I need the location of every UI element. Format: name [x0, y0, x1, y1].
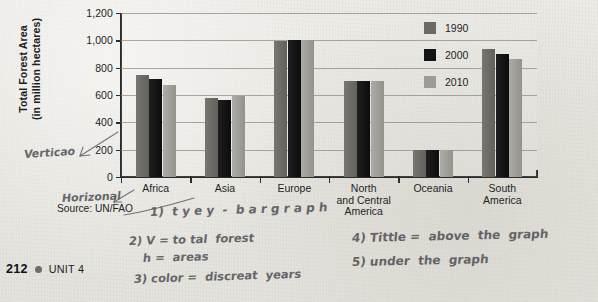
- legend-swatch-1990: [424, 22, 436, 34]
- legend-label: 2010: [445, 76, 468, 88]
- bar-2010: [163, 85, 176, 177]
- legend-swatch-2000: [424, 49, 436, 61]
- x-axis-tick: [329, 176, 330, 183]
- bar-2010: [509, 59, 522, 177]
- y-axis-tick-label: 600: [57, 89, 113, 101]
- bar-1990: [274, 41, 287, 177]
- bar-2000: [357, 81, 370, 177]
- y-axis-tick-label: 0: [57, 171, 113, 183]
- plot-area: [121, 13, 537, 177]
- unit-label: UNIT 4: [49, 263, 85, 275]
- legend-swatch-2010: [424, 76, 436, 88]
- legend-label: 1990: [445, 22, 468, 34]
- gridline: [121, 122, 537, 123]
- annotation-underline-africa: [118, 196, 198, 218]
- annotation-note-5: 5) under the graph: [351, 252, 489, 269]
- bar-group: [482, 13, 522, 177]
- y-axis-tick: [116, 122, 121, 123]
- x-axis-tick: [398, 176, 399, 183]
- bar-2000: [149, 79, 162, 177]
- y-axis-title-line1: Total Forest Area: [17, 0, 30, 138]
- y-axis-tick-label: 1,200: [57, 7, 113, 19]
- legend-item: 2000: [424, 46, 468, 64]
- bar-1990: [413, 150, 426, 177]
- y-axis-tick-label: 800: [57, 62, 113, 74]
- page-footer: 212 UNIT 4: [6, 262, 84, 276]
- gridline: [121, 13, 537, 14]
- x-axis-tick: [260, 176, 261, 183]
- bar-2010: [440, 150, 453, 177]
- bar-2010: [371, 81, 384, 177]
- annotation-arrow-vertical: [78, 126, 128, 160]
- bar-group: [136, 13, 176, 177]
- bar-1990: [344, 81, 357, 177]
- bar-2000: [218, 100, 231, 177]
- bullet-icon: [35, 266, 42, 273]
- y-axis-title-line2: (in million hectares): [30, 0, 43, 138]
- bar-group: [344, 13, 384, 177]
- bar-2010: [301, 40, 314, 177]
- gridline: [121, 150, 537, 151]
- y-axis-title: Total Forest Area (in million hectares): [17, 0, 43, 138]
- chart-legend: 199020002010: [424, 19, 468, 100]
- bar-2000: [496, 54, 509, 177]
- bar-group: [205, 13, 245, 177]
- y-axis-tick: [116, 13, 121, 14]
- x-axis-category-label-line: America: [323, 206, 404, 218]
- bar-1990: [136, 75, 149, 178]
- y-axis-tick: [116, 177, 121, 178]
- x-axis-category-label: SouthAmerica: [462, 183, 543, 206]
- x-axis-tick: [190, 176, 191, 183]
- gridline: [121, 40, 537, 41]
- y-axis-tick-label: 1,000: [57, 34, 113, 46]
- bar-2010: [232, 96, 245, 177]
- page-number: 212: [6, 262, 28, 276]
- x-axis-category-label-line: America: [462, 195, 543, 207]
- legend-item: 1990: [424, 19, 468, 37]
- x-axis-tick: [468, 176, 469, 183]
- x-axis-tick: [121, 176, 122, 183]
- bar-1990: [205, 98, 218, 177]
- y-axis-tick: [116, 95, 121, 96]
- y-axis-tick: [116, 40, 121, 41]
- gridline: [121, 68, 537, 69]
- x-axis-category-label-line: South: [462, 183, 543, 195]
- bar-group: [274, 13, 314, 177]
- bar-2000: [288, 40, 301, 177]
- bar-2000: [426, 150, 439, 177]
- bar-1990: [482, 49, 495, 177]
- annotation-note-2b: h = areas: [142, 249, 209, 265]
- gridline: [121, 95, 537, 96]
- y-axis-tick: [116, 68, 121, 69]
- legend-label: 2000: [445, 49, 468, 61]
- legend-item: 2010: [424, 73, 468, 91]
